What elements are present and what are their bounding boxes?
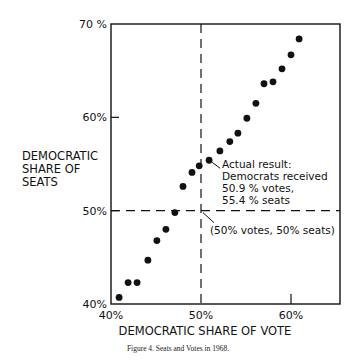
data-point — [217, 148, 224, 155]
data-point — [253, 100, 260, 107]
equal-share-annotation: (50% votes, 50% seats) — [210, 224, 335, 236]
data-point — [172, 209, 179, 216]
data-point — [235, 130, 242, 137]
data-point — [206, 157, 213, 164]
data-point — [270, 78, 277, 85]
data-point — [226, 138, 233, 145]
actual-result-annotation: 55.4 % seats — [222, 194, 290, 206]
actual-result-annotation: 50.9 % votes, — [222, 182, 294, 194]
data-point — [296, 36, 303, 43]
annotations: Actual result:Democrats received50.9 % v… — [203, 158, 335, 236]
x-axis-label: DEMOCRATIC SHARE OF VOTE — [119, 324, 292, 338]
actual-result-annotation: Actual result: — [222, 158, 291, 170]
data-point — [154, 237, 161, 244]
data-point — [288, 51, 295, 58]
data-point — [261, 80, 268, 87]
data-point — [163, 226, 170, 233]
data-point — [116, 294, 123, 301]
x-tick-label: 40% — [99, 309, 123, 322]
y-axis-label: SEATS — [22, 175, 58, 189]
actual-result-pointer — [212, 162, 220, 168]
y-axis-label: SHARE OF — [22, 162, 80, 176]
equal-share-pointer — [203, 213, 214, 223]
data-point — [134, 279, 141, 286]
data-point — [125, 279, 132, 286]
x-tick-label: 60% — [279, 309, 303, 322]
data-point — [244, 115, 251, 122]
data-point — [196, 162, 203, 169]
y-tick-label: 70 % — [79, 18, 107, 31]
data-point — [180, 183, 187, 190]
x-tick-label: 50% — [189, 309, 213, 322]
data-point — [189, 169, 196, 176]
seats-votes-scatter-chart: 40%50%60%70 %40%50%60% Actual result:Dem… — [0, 0, 357, 363]
actual-result-annotation: Democrats received — [222, 170, 328, 182]
y-axis-label: DEMOCRATIC — [22, 149, 98, 163]
data-point — [279, 65, 286, 72]
y-tick-label: 50% — [83, 205, 107, 218]
y-tick-label: 60% — [83, 111, 107, 124]
data-point — [145, 257, 152, 264]
figure-caption: Figure 4. Seats and Votes in 1968. — [127, 344, 229, 353]
